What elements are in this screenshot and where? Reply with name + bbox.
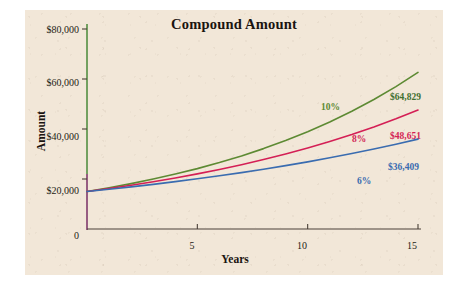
- chart-axes: [82, 24, 421, 230]
- chart-plot-area: [25, 10, 443, 275]
- chart-figure: Compound Amount Amount Years $80,000 $60…: [25, 10, 443, 275]
- chart-curves: [87, 72, 418, 191]
- curve-10pct: [87, 72, 418, 191]
